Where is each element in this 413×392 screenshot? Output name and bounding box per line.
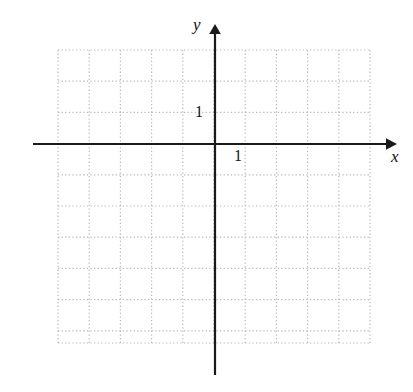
x-axis-tick-label-1: 1	[234, 148, 242, 164]
y-axis	[209, 24, 221, 375]
x-axis-label: x	[391, 148, 399, 165]
y-axis-label: y	[193, 16, 201, 33]
y-axis-arrowhead	[209, 24, 221, 34]
coordinate-plane-figure: y x 1 1	[0, 0, 413, 392]
grid-and-axes-canvas	[0, 0, 413, 392]
y-axis-tick-label-1: 1	[195, 104, 203, 120]
